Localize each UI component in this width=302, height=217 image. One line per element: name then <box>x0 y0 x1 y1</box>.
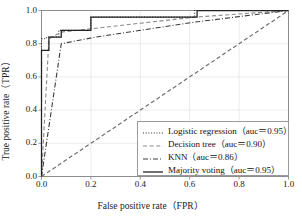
legend-item-label: Majority voting（auc＝0.95） <box>168 163 280 176</box>
legend-line-sample <box>142 125 164 137</box>
x-tick-label: 0.0 <box>27 179 57 189</box>
legend: Logistic regression（auc＝0.95）Decision tr… <box>137 121 289 176</box>
x-tick-label: 0.8 <box>224 179 254 189</box>
legend-line-sample <box>142 138 164 150</box>
x-tick-label: 0.6 <box>175 179 205 189</box>
roc-curve-figure: False positive rate（FPR） True positive r… <box>0 0 301 217</box>
y-tick-label: 0.8 <box>11 38 37 48</box>
legend-item-label: Logistic regression（auc＝0.95） <box>168 124 292 137</box>
legend-item: Majority voting（auc＝0.95） <box>138 163 288 176</box>
y-tick-label: 0.0 <box>11 171 37 181</box>
legend-item: Decision tree（auc＝0.90） <box>138 137 288 150</box>
legend-line-sample <box>142 151 164 163</box>
x-tick-label: 0.2 <box>76 179 106 189</box>
x-tick-label: 1.0 <box>274 179 302 189</box>
y-tick-label: 0.6 <box>11 71 37 81</box>
legend-line-sample <box>142 164 164 176</box>
legend-item: KNN（auc＝0.86） <box>138 150 288 163</box>
legend-item-label: KNN（auc＝0.86） <box>168 150 243 163</box>
legend-item-label: Decision tree（auc＝0.90） <box>168 137 271 150</box>
x-tick-label: 0.4 <box>125 179 155 189</box>
y-tick-label: 1.0 <box>11 5 37 15</box>
y-tick-label: 0.4 <box>11 104 37 114</box>
x-axis-title: False positive rate（FPR） <box>0 198 301 212</box>
legend-item: Logistic regression（auc＝0.95） <box>138 124 288 137</box>
y-tick-label: 0.2 <box>11 137 37 147</box>
